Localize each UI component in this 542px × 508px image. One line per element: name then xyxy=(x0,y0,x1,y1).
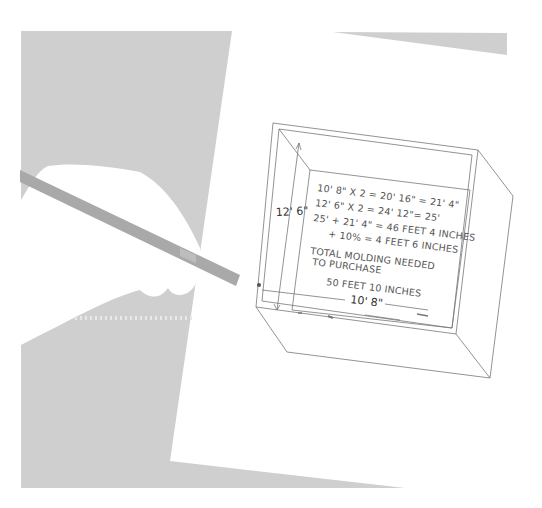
floor-mark xyxy=(328,316,333,318)
perspective-line-tl xyxy=(279,129,310,170)
height-dimension-line xyxy=(277,143,299,310)
calculation-notes: 10' 8" X 2 = 20' 16" = 21' 4" 12' 6" X 2… xyxy=(309,182,476,299)
width-label: 10' 8" xyxy=(350,293,384,310)
floor-mark xyxy=(365,315,400,320)
pencil-tip-mark xyxy=(257,283,261,287)
height-label: 12' 6" xyxy=(275,204,308,219)
width-dimension-line-right xyxy=(385,304,428,310)
molding-illustration: 12' 6" 10' 8" 10' 8" X 2 = 20' 16" = 21'… xyxy=(0,0,542,508)
room-drawing xyxy=(256,123,513,378)
room-bottom-side xyxy=(256,307,490,378)
illustration-canvas: 12' 6" 10' 8" 10' 8" X 2 = 20' 16" = 21'… xyxy=(0,0,542,508)
width-dimension-line-left xyxy=(262,290,345,300)
table-surface-top-right xyxy=(333,32,507,55)
floor-mark xyxy=(417,314,428,316)
